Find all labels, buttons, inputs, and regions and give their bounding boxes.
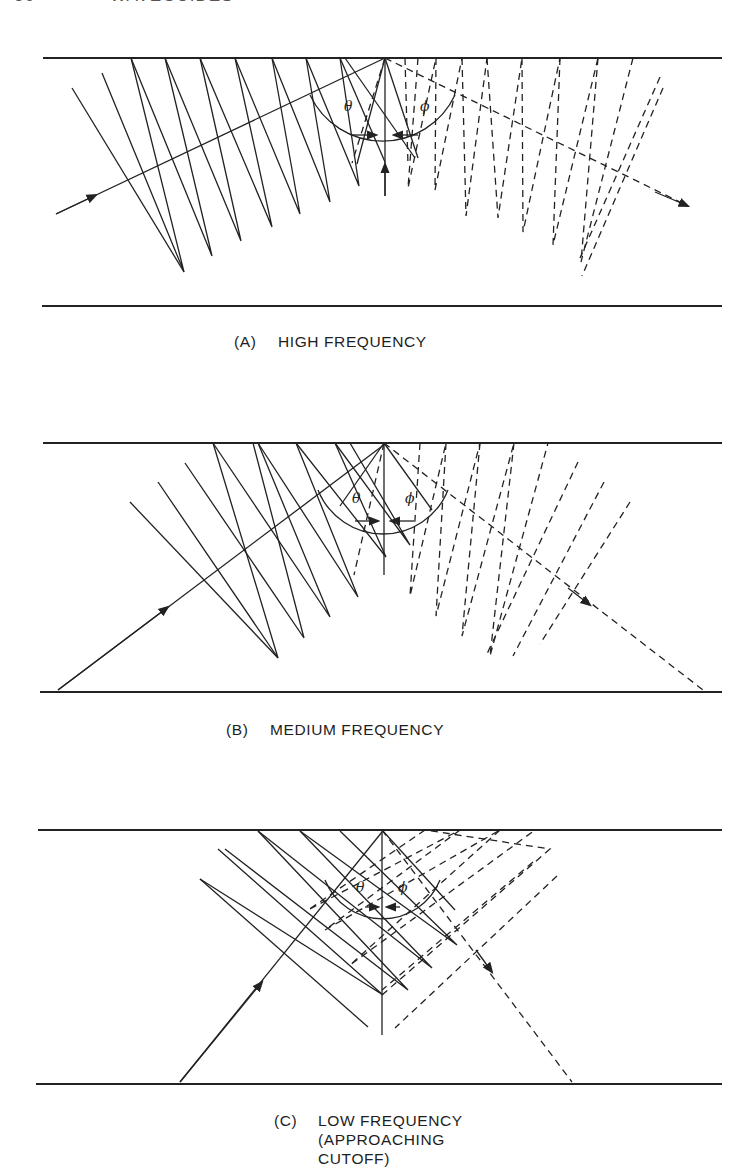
caption-panel-b: (B)MEDIUM FREQUENCY xyxy=(226,720,444,739)
caption-text-c-line3: CUTOFF) xyxy=(274,1149,463,1168)
phi-symbol-b: ϕ xyxy=(405,490,415,506)
panel-c-low-frequency xyxy=(36,830,722,1084)
panel-b-medium-frequency xyxy=(40,443,722,692)
theta-symbol-a: θ xyxy=(344,98,353,114)
panel-label-c: (C) xyxy=(274,1111,318,1130)
incident-wavefronts xyxy=(72,58,415,272)
theta-symbol-c: θ xyxy=(356,879,365,895)
caption-panel-a: (A)HIGH FREQUENCY xyxy=(234,332,427,351)
caption-text-c-line1: LOW FREQUENCY xyxy=(318,1112,463,1129)
phi-symbol-c: ϕ xyxy=(398,879,408,895)
caption-panel-c: (C)LOW FREQUENCY (APPROACHING CUTOFF) xyxy=(274,1111,463,1168)
caption-text-c-line2: (APPROACHING xyxy=(274,1130,463,1149)
panel-label-b: (B) xyxy=(226,720,270,739)
panel-a-high-frequency xyxy=(42,58,722,306)
phi-symbol-a: ϕ xyxy=(420,98,430,114)
incident-wavefronts xyxy=(130,443,410,658)
caption-text-a: HIGH FREQUENCY xyxy=(278,333,427,350)
theta-symbol-b: θ xyxy=(352,490,361,506)
panel-label-a: (A) xyxy=(234,332,278,351)
reflected-wavefronts xyxy=(354,443,703,690)
waveguide-figure: θ ϕ xyxy=(0,0,752,1172)
caption-text-b: MEDIUM FREQUENCY xyxy=(270,721,444,738)
reflected-wavefronts xyxy=(308,830,572,1082)
reflected-ray xyxy=(385,58,688,206)
reflected-ray xyxy=(382,830,572,1082)
reflected-ray xyxy=(384,443,703,690)
angle-arc xyxy=(310,95,455,141)
reflected-wavefronts xyxy=(352,58,688,276)
